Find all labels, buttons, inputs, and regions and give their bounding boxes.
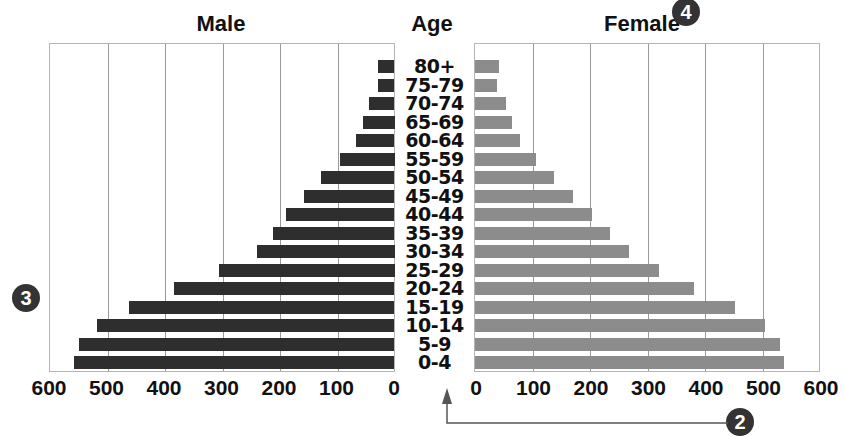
annotation-arrow-icon	[0, 0, 844, 432]
